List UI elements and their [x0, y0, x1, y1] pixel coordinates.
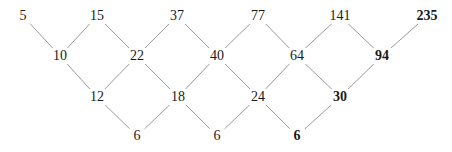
connector-line	[224, 23, 250, 48]
connector-line	[184, 23, 209, 48]
connector-line	[185, 104, 209, 128]
connector-line	[265, 104, 289, 128]
connector-line	[104, 63, 129, 89]
table-value-row0: 77	[249, 8, 267, 24]
connector-line	[305, 63, 333, 90]
table-value-row1: 64	[288, 48, 306, 64]
connector-line	[67, 24, 90, 49]
connector-line	[348, 23, 375, 49]
connector-line	[104, 23, 129, 48]
connector-line	[305, 23, 333, 49]
table-value-row2: 30	[331, 89, 349, 105]
connector-line	[305, 104, 333, 129]
connector-line	[225, 104, 251, 129]
connector-line	[265, 64, 290, 90]
table-value-row0: 141	[328, 8, 353, 24]
table-value-row3: 6	[212, 128, 223, 144]
table-value-row3: 6	[132, 128, 143, 144]
table-value-row2: 12	[88, 89, 106, 105]
connector-line	[347, 63, 374, 89]
table-value-row2: 24	[249, 89, 267, 105]
connector-line	[390, 23, 419, 49]
table-value-row3: 6	[292, 128, 303, 144]
table-value-row1: 22	[128, 48, 146, 64]
table-value-row0: 15	[88, 8, 106, 24]
connector-line	[67, 64, 90, 90]
connector-line	[185, 64, 210, 90]
table-value-row0: 235	[415, 8, 440, 24]
connector-line	[144, 23, 169, 48]
connector-line	[144, 63, 170, 89]
connector-line	[224, 63, 250, 89]
connector-line	[104, 104, 129, 128]
table-value-row0: 5	[18, 8, 29, 24]
connector-lines	[0, 0, 452, 152]
connector-line	[30, 24, 53, 49]
difference-table-diagram: 5153777141235102240649412182430666	[0, 0, 452, 152]
table-value-row2: 18	[169, 89, 187, 105]
table-value-row0: 37	[168, 8, 186, 24]
connector-line	[145, 104, 171, 129]
table-value-row1: 40	[208, 48, 226, 64]
table-value-row1: 10	[51, 48, 69, 64]
connector-line	[265, 23, 289, 48]
table-value-row1: 94	[373, 48, 391, 64]
